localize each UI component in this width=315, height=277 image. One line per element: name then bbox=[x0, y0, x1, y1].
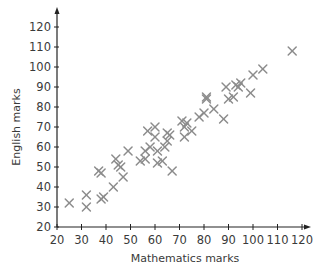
x-marker-icon bbox=[100, 193, 108, 201]
x-axis: 2030405060708090100110120 bbox=[50, 224, 313, 247]
x-marker-icon bbox=[180, 133, 188, 141]
x-tick-label: 40 bbox=[99, 233, 114, 247]
y-axis: 2030405060708090100110120 bbox=[29, 7, 59, 234]
x-tick-label: 70 bbox=[172, 233, 187, 247]
x-marker-icon bbox=[249, 71, 257, 79]
x-marker-icon bbox=[117, 163, 125, 171]
x-marker-icon bbox=[124, 147, 132, 155]
x-marker-icon bbox=[259, 65, 267, 73]
x-axis-title: Mathematics marks bbox=[131, 252, 240, 265]
x-tick-label: 20 bbox=[50, 233, 65, 247]
x-marker-icon bbox=[82, 203, 90, 211]
y-tick-label: 40 bbox=[36, 180, 51, 194]
y-tick-label: 60 bbox=[36, 140, 51, 154]
y-tick-label: 20 bbox=[36, 220, 51, 234]
y-tick-label: 100 bbox=[29, 60, 51, 74]
x-marker-icon bbox=[119, 173, 127, 181]
x-marker-icon bbox=[97, 169, 105, 177]
x-marker-icon bbox=[200, 109, 208, 117]
x-marker-icon bbox=[109, 183, 117, 191]
y-tick-label: 110 bbox=[29, 40, 51, 54]
x-tick-label: 100 bbox=[242, 233, 264, 247]
y-tick-label: 90 bbox=[36, 80, 51, 94]
x-tick-label: 50 bbox=[123, 233, 138, 247]
x-tick-label: 60 bbox=[148, 233, 163, 247]
y-tick-label: 30 bbox=[36, 200, 51, 214]
x-marker-icon bbox=[210, 105, 218, 113]
x-marker-icon bbox=[288, 47, 296, 55]
y-axis-title: English marks bbox=[10, 88, 23, 166]
x-marker-icon bbox=[222, 83, 230, 91]
y-tick-label: 120 bbox=[29, 20, 51, 34]
x-tick-label: 120 bbox=[291, 233, 313, 247]
scatter-chart: 2030405060708090100110120 20304050607080… bbox=[0, 0, 315, 277]
y-tick-label: 80 bbox=[36, 100, 51, 114]
x-tick-label: 110 bbox=[267, 233, 289, 247]
x-marker-icon bbox=[65, 199, 73, 207]
x-axis-arrow-icon bbox=[304, 225, 311, 230]
x-tick-label: 30 bbox=[74, 233, 89, 247]
x-tick-label: 90 bbox=[221, 233, 236, 247]
data-points bbox=[65, 47, 296, 211]
y-tick-label: 50 bbox=[36, 160, 51, 174]
x-marker-icon bbox=[168, 167, 176, 175]
x-tick-label: 80 bbox=[197, 233, 212, 247]
x-marker-icon bbox=[220, 115, 228, 123]
x-marker-icon bbox=[247, 89, 255, 97]
y-axis-arrow-icon bbox=[55, 7, 60, 14]
y-tick-label: 70 bbox=[36, 120, 51, 134]
y-ticks: 2030405060708090100110120 bbox=[29, 20, 59, 234]
x-marker-icon bbox=[82, 191, 90, 199]
x-marker-icon bbox=[151, 133, 159, 141]
